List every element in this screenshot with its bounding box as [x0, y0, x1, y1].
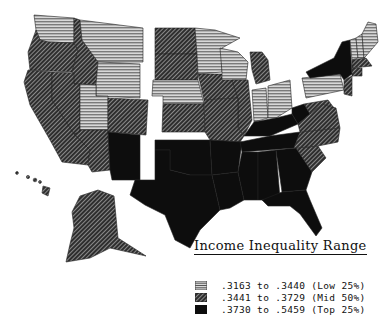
state-al — [258, 150, 280, 200]
state-mo — [204, 98, 244, 142]
state-sd — [155, 54, 198, 80]
state-co — [108, 98, 148, 135]
state-hi — [16, 172, 50, 196]
state-nd — [155, 28, 197, 54]
state-oh — [268, 80, 292, 118]
state-pa — [302, 74, 344, 98]
state-wa — [34, 15, 74, 43]
state-in — [252, 88, 268, 122]
state-nm — [108, 132, 140, 180]
state-ne — [152, 80, 204, 104]
state-mi — [250, 52, 270, 84]
legend-item-top: .3730 to .5459 (Top 25%) — [195, 303, 365, 315]
state-me — [362, 22, 378, 58]
legend-title: Income Inequality Range — [194, 238, 367, 255]
state-wi — [220, 48, 248, 80]
state-fl — [262, 190, 322, 236]
legend-item-mid: .3441 to .3729 (Mid 50%) — [195, 291, 365, 303]
state-wy — [96, 62, 140, 98]
state-ar — [210, 140, 242, 175]
legend-label-mid: .3441 to .3729 (Mid 50%) — [221, 292, 365, 303]
state-ct — [352, 68, 362, 76]
horizontal-stripes-swatch-icon — [195, 281, 207, 290]
state-ks — [162, 104, 205, 132]
legend-label-top: .3730 to .5459 (Top 25%) — [221, 304, 365, 315]
legend-item-low: .3163 to .3440 (Low 25%) — [195, 279, 365, 291]
state-ny — [306, 40, 352, 80]
legend-label-low: .3163 to .3440 (Low 25%) — [221, 280, 365, 291]
legend: .3163 to .3440 (Low 25%) .3441 to .3729 … — [195, 279, 365, 315]
crosshatch-swatch-icon — [195, 293, 207, 302]
state-ak — [66, 190, 146, 262]
state-ma — [352, 58, 372, 68]
solid-swatch-icon — [195, 305, 207, 314]
